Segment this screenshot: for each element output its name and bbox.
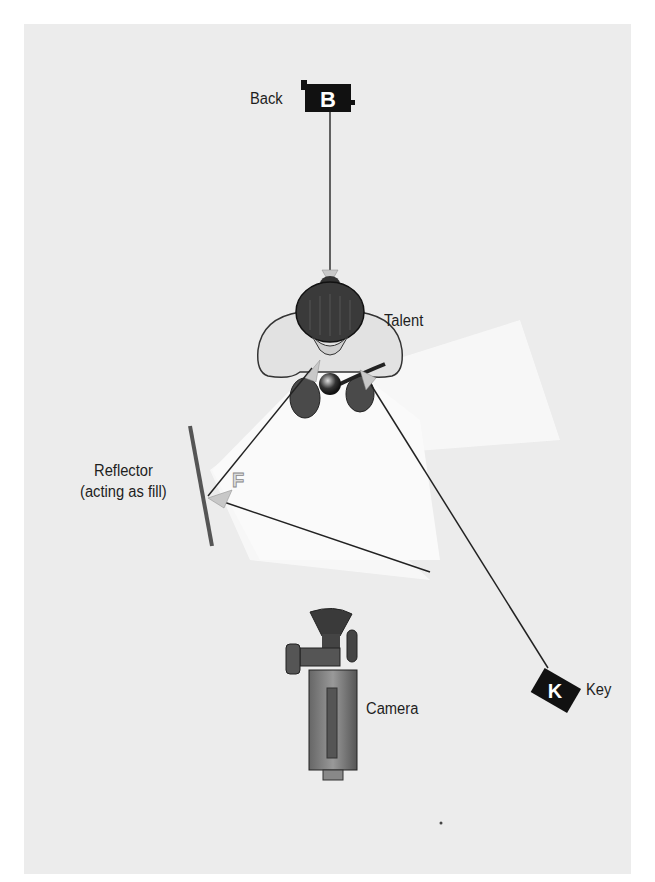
camera-icon	[286, 608, 357, 780]
back-label: Back	[250, 90, 283, 108]
lighting-diagram: B F	[0, 0, 655, 882]
svg-text:B: B	[320, 87, 336, 112]
svg-text:K: K	[548, 680, 563, 702]
key-label: Key	[586, 681, 611, 699]
reflector-label-line1: Reflector	[94, 462, 153, 480]
stray-dot	[440, 822, 443, 825]
back-light-icon: B	[301, 80, 355, 112]
back-light-beam	[322, 112, 338, 284]
fill-marker-icon: F	[232, 469, 244, 491]
reflector-label-line2: (acting as fill)	[80, 483, 167, 501]
talent-label: Talent	[384, 312, 423, 330]
key-light-icon: K	[531, 668, 581, 713]
reflector-board	[190, 426, 212, 546]
camera-label: Camera	[366, 700, 418, 718]
